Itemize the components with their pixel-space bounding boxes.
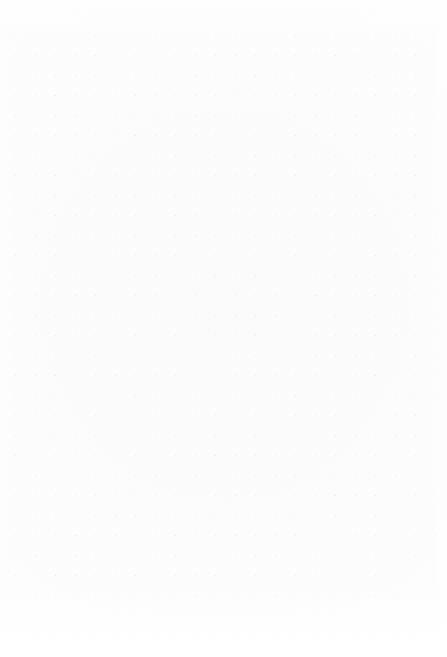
grid-dot: [115, 95, 116, 96]
grid-dot: [155, 635, 156, 636]
grid-dot: [15, 295, 16, 296]
grid-dot: [255, 195, 256, 196]
grid-dot: [355, 95, 356, 96]
grid-dot: [215, 295, 216, 296]
grid-dot: [335, 575, 336, 576]
grid-dot: [315, 35, 316, 36]
grid-dot: [155, 275, 156, 276]
grid-dot: [335, 635, 336, 636]
grid-dot: [295, 115, 296, 116]
grid-dot: [335, 455, 336, 456]
grid-dot: [235, 135, 236, 136]
grid-dot: [55, 275, 56, 276]
grid-dot: [195, 615, 196, 616]
grid-dot: [195, 35, 196, 36]
dot-grid-canvas[interactable]: [0, 0, 447, 657]
grid-dot: [395, 475, 396, 476]
grid-dot: [75, 535, 76, 536]
grid-dot: [275, 115, 276, 116]
grid-dot: [195, 595, 196, 596]
grid-dot: [235, 415, 236, 416]
grid-dot: [355, 415, 356, 416]
grid-dot: [295, 515, 296, 516]
grid-dot: [35, 455, 36, 456]
grid-dot: [395, 355, 396, 356]
grid-dot: [415, 555, 416, 556]
grid-dot: [355, 15, 356, 16]
grid-dot: [295, 295, 296, 296]
grid-dot: [235, 495, 236, 496]
grid-dot: [255, 415, 256, 416]
grid-dot: [355, 435, 356, 436]
grid-dot: [235, 615, 236, 616]
grid-dot: [435, 115, 436, 116]
grid-dot: [375, 435, 376, 436]
grid-dot: [95, 75, 96, 76]
grid-dot: [115, 555, 116, 556]
grid-dot: [275, 15, 276, 16]
grid-dot: [95, 575, 96, 576]
grid-dot: [175, 475, 176, 476]
grid-dot: [35, 255, 36, 256]
grid-dot: [155, 15, 156, 16]
grid-dot: [315, 615, 316, 616]
grid-dot: [75, 275, 76, 276]
grid-dot: [275, 395, 276, 396]
grid-dot: [115, 75, 116, 76]
grid-dot: [395, 175, 396, 176]
grid-dot: [275, 475, 276, 476]
grid-dot: [115, 295, 116, 296]
grid-dot: [195, 75, 196, 76]
grid-dot: [15, 435, 16, 436]
grid-dot: [15, 175, 16, 176]
grid-dot: [255, 215, 256, 216]
grid-dot: [155, 215, 156, 216]
grid-dot: [395, 195, 396, 196]
grid-dot: [15, 535, 16, 536]
grid-dot: [255, 155, 256, 156]
grid-dot: [195, 15, 196, 16]
grid-dot: [235, 555, 236, 556]
grid-dot: [75, 255, 76, 256]
grid-dot: [175, 95, 176, 96]
grid-dot: [375, 35, 376, 36]
grid-dot: [335, 375, 336, 376]
grid-dot: [75, 35, 76, 36]
grid-dot: [435, 255, 436, 256]
grid-dot: [395, 135, 396, 136]
grid-dot: [355, 575, 356, 576]
grid-dot: [95, 595, 96, 596]
grid-dot: [15, 135, 16, 136]
grid-dot: [275, 495, 276, 496]
grid-dot: [415, 415, 416, 416]
grid-dot: [95, 175, 96, 176]
grid-dot: [335, 35, 336, 36]
grid-dot: [435, 515, 436, 516]
grid-dot: [15, 495, 16, 496]
grid-dot: [415, 35, 416, 36]
grid-dot: [75, 515, 76, 516]
grid-dot: [55, 615, 56, 616]
grid-dot: [115, 115, 116, 116]
grid-dot: [295, 595, 296, 596]
grid-dot: [335, 615, 336, 616]
grid-dot: [35, 135, 36, 136]
grid-dot: [215, 355, 216, 356]
grid-dot: [255, 575, 256, 576]
grid-dot: [335, 355, 336, 356]
grid-dot: [255, 555, 256, 556]
grid-dot: [195, 195, 196, 196]
grid-dot: [75, 95, 76, 96]
grid-dot: [335, 395, 336, 396]
grid-dot: [175, 295, 176, 296]
grid-dot: [215, 255, 216, 256]
grid-dot: [295, 195, 296, 196]
grid-dot: [415, 295, 416, 296]
grid-dot: [275, 95, 276, 96]
grid-dot: [275, 515, 276, 516]
grid-dot: [255, 455, 256, 456]
grid-dot: [195, 295, 196, 296]
grid-dot: [275, 575, 276, 576]
grid-dot: [115, 335, 116, 336]
grid-dot: [35, 195, 36, 196]
